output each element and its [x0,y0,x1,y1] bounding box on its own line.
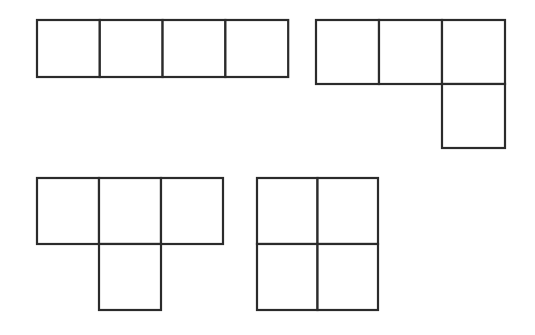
cell-square [318,178,379,244]
shape-t-tetromino [34,175,226,313]
cell-square [37,178,99,244]
shape-l-tetromino [313,17,508,151]
cell-square [442,20,505,84]
cell-square [379,20,442,84]
cell-square [99,178,161,244]
cell-square [257,244,318,310]
t-tetromino-svg [34,175,226,313]
l-tetromino-svg [313,17,508,151]
cell-square [37,20,100,77]
cell-square [442,84,505,148]
cell-square [163,20,226,77]
cell-square [257,178,318,244]
cell-square [225,20,288,77]
cell-square [99,244,161,310]
cell-square [100,20,163,77]
cell-square [318,244,379,310]
o-tetromino-svg [254,175,381,313]
i-tetromino-svg [34,17,291,80]
shape-i-tetromino [34,17,291,80]
shape-o-tetromino [254,175,381,313]
figure-canvas [0,0,535,335]
cell-square [161,178,223,244]
cell-square [316,20,379,84]
